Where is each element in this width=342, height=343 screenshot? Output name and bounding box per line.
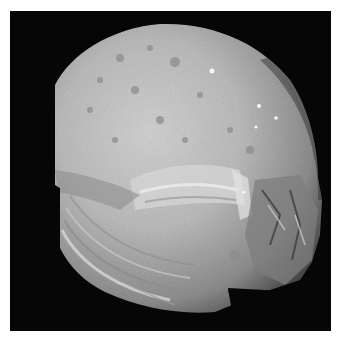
shadow-notch — [228, 288, 305, 312]
moon-image — [10, 11, 331, 331]
space-background — [10, 11, 331, 331]
moon-surface — [40, 20, 330, 320]
